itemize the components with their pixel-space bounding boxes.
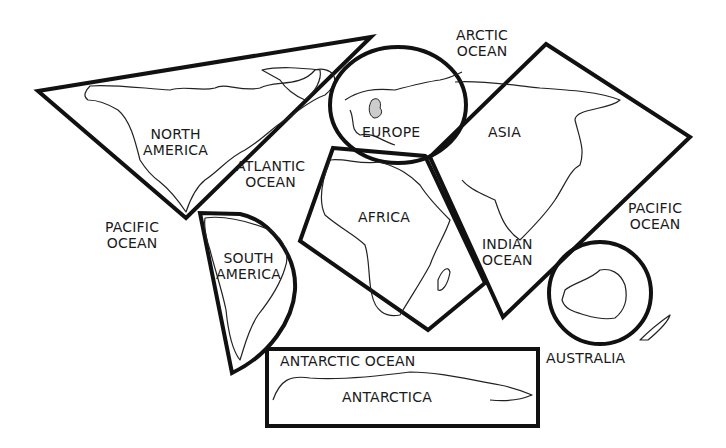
british-isles	[369, 99, 381, 118]
asia-coast	[455, 82, 620, 240]
label-asia: ASIA	[488, 124, 521, 140]
label-line: AMERICA	[143, 142, 208, 158]
africa-frame	[300, 148, 485, 330]
label-line: ANTARCTICA	[342, 389, 432, 405]
asia-frame	[430, 44, 690, 317]
label-line: OCEAN	[628, 216, 682, 232]
label-line: OCEAN	[236, 174, 305, 190]
label-line: AUSTRALIA	[546, 350, 625, 366]
label-line: ATLANTIC	[236, 158, 305, 174]
label-indian-ocean: INDIAN OCEAN	[482, 236, 533, 268]
europe-frame	[330, 47, 466, 163]
label-europe: EUROPE	[362, 124, 420, 140]
label-line: PACIFIC	[105, 219, 159, 235]
label-pacific-ocean-east: PACIFIC OCEAN	[628, 200, 682, 232]
label-atlantic-ocean: ATLANTIC OCEAN	[236, 158, 305, 190]
australia-coast	[562, 270, 626, 319]
world-map: NORTH AMERICA SOUTH AMERICA EUROPE AFRIC…	[0, 0, 726, 448]
label-line: SOUTH	[216, 250, 281, 266]
label-pacific-ocean-west: PACIFIC OCEAN	[105, 219, 159, 251]
label-africa: AFRICA	[358, 209, 410, 225]
label-line: OCEAN	[482, 252, 533, 268]
label-line: AMERICA	[216, 266, 281, 282]
label-antarctica: ANTARCTICA	[342, 389, 432, 405]
label-line: OCEAN	[105, 235, 159, 251]
label-line: OCEAN	[456, 43, 508, 59]
label-line: ARCTIC	[456, 27, 508, 43]
label-line: ASIA	[488, 124, 521, 140]
label-north-america: NORTH AMERICA	[143, 126, 208, 158]
label-line: PACIFIC	[628, 200, 682, 216]
label-antarctic-ocean: ANTARCTIC OCEAN	[280, 353, 416, 369]
label-south-america: SOUTH AMERICA	[216, 250, 281, 282]
label-line: ANTARCTIC OCEAN	[280, 353, 416, 369]
label-line: EUROPE	[362, 124, 420, 140]
label-line: AFRICA	[358, 209, 410, 225]
label-line: NORTH	[143, 126, 208, 142]
africa-coast	[321, 160, 450, 316]
label-arctic-ocean: ARCTIC OCEAN	[456, 27, 508, 59]
label-australia: AUSTRALIA	[546, 350, 625, 366]
label-line: INDIAN	[482, 236, 533, 252]
north-america-coast	[85, 69, 335, 212]
